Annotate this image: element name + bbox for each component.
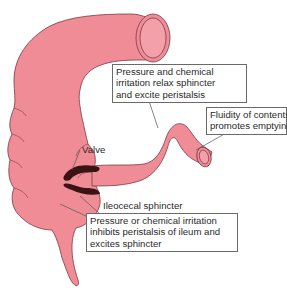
label-line: promotes emptying — [210, 120, 283, 131]
label-fluidity: Fluidity of contents promotes emptying — [206, 107, 287, 135]
colon-opening-inner — [140, 18, 166, 58]
label-valve: Valve — [82, 144, 105, 155]
label-line: Fluidity of contents — [210, 109, 283, 120]
label-line: and excite peristalsis — [116, 89, 243, 100]
label-line: excites sphincter — [90, 238, 234, 249]
label-line: irritation relax sphincter — [116, 77, 243, 88]
label-relax-sphincter: Pressure and chemical irritation relax s… — [112, 64, 247, 103]
ileum-tube — [92, 124, 212, 186]
label-line: Pressure and chemical — [116, 66, 243, 77]
label-line: Pressure or chemical irritation — [90, 215, 234, 226]
label-line: inhibits peristalsis of ileum and — [90, 226, 234, 237]
label-inhibits-peristalsis: Pressure or chemical irritation inhibits… — [86, 213, 238, 252]
label-ileocecal-sphincter: Ileocecal sphincter — [103, 200, 182, 211]
